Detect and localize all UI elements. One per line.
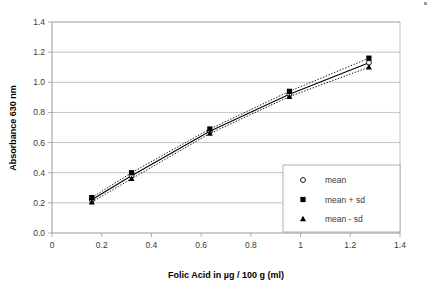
- marker-mean-sd: [366, 64, 372, 70]
- x-tick-label: 0.6: [195, 240, 207, 250]
- x-tick-label: 1: [298, 240, 303, 250]
- y-tick-label: 1.0: [33, 77, 45, 87]
- legend-marker-circle: [301, 178, 306, 183]
- x-tick-label: 1.2: [344, 240, 356, 250]
- legend-label: mean - sd: [325, 214, 363, 224]
- legend[interactable]: meanmean + sdmean - sd: [283, 165, 400, 232]
- legend-label: mean: [325, 175, 347, 185]
- y-tick-label: 0.4: [33, 168, 45, 178]
- x-tick-label: 0.4: [146, 240, 158, 250]
- y-tick-label: 0.0: [33, 228, 45, 238]
- marker-mean-sd: [287, 89, 292, 94]
- y-axis-title: Absorbance 630 nm: [8, 85, 18, 171]
- absorbance-calibration-chart: 00.20.40.60.811.21.4 0.00.20.40.60.81.01…: [0, 0, 429, 286]
- x-tick-label: 0.2: [96, 240, 108, 250]
- chart-container: 00.20.40.60.811.21.4 0.00.20.40.60.81.01…: [0, 0, 429, 286]
- y-tick-label: 0.6: [33, 138, 45, 148]
- y-tick-label: 1.4: [33, 17, 45, 27]
- y-tick-label: 1.2: [33, 47, 45, 57]
- legend-marker-square: [300, 197, 305, 202]
- y-tick-label: 0.2: [33, 198, 45, 208]
- x-tick-labels: 00.20.40.60.811.21.4: [50, 240, 407, 250]
- legend-label: mean + sd: [325, 195, 365, 205]
- corner-artifact-mark: [424, 2, 427, 5]
- x-tick-label: 1.4: [394, 240, 406, 250]
- marker-mean-sd: [129, 170, 134, 175]
- x-axis-title: Folic Acid in µg / 100 g (ml): [168, 270, 284, 280]
- y-tick-labels: 0.00.20.40.60.81.01.21.4: [33, 17, 45, 238]
- x-tick-label: 0.8: [245, 240, 257, 250]
- marker-mean-sd: [366, 56, 371, 61]
- y-tick-label: 0.8: [33, 107, 45, 117]
- x-tick-label: 0: [50, 240, 55, 250]
